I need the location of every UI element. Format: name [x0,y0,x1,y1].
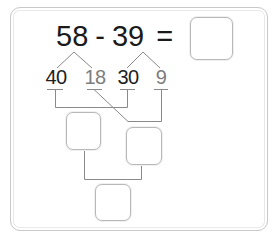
ones-difference-box[interactable] [126,127,162,165]
final-sum-box[interactable] [95,184,131,221]
part-18: 18 [83,66,107,88]
part-30: 30 [116,66,140,88]
tens-difference-box[interactable] [66,112,101,150]
connector-lines [0,0,279,242]
part-40: 40 [44,66,68,88]
part-9: 9 [149,66,173,88]
